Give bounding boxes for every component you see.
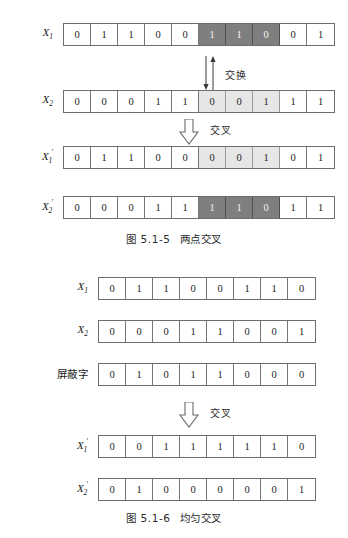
swap-label: 交换: [225, 67, 246, 82]
gene-cell: 1: [261, 436, 288, 457]
gene-cell: 1: [172, 197, 199, 218]
gene-cell: 0: [126, 436, 153, 457]
gene-cell: 1: [118, 24, 145, 45]
gene-strip-x2: 0 0 0 1 1 0 0 1 1 1: [63, 90, 335, 113]
gene-cell: 0: [261, 321, 288, 342]
gene-cell: 0: [118, 197, 145, 218]
gene-cell: 1: [288, 321, 315, 342]
gene-cell: 0: [172, 147, 199, 168]
gene-cell: 0: [153, 364, 180, 385]
gene-cell: 0: [234, 364, 261, 385]
gene-strip-mask: 0 1 0 1 1 0 0 0: [98, 363, 316, 386]
gene-cell: 1: [207, 436, 234, 457]
hollow-down-arrow-icon: [178, 402, 200, 428]
gene-cell: 1: [207, 364, 234, 385]
caption-number: 图 5.1-6: [126, 512, 171, 524]
gene-strip-x2-prime: 0 0 0 1 1 1 1 0 1 1: [63, 196, 335, 219]
crossover-annotation: 交叉: [178, 402, 231, 428]
gene-cell: 0: [180, 278, 207, 299]
caption-title: 两点交叉: [180, 233, 222, 245]
caption-title: 均匀交叉: [180, 512, 222, 524]
gene-cell: 0: [91, 197, 118, 218]
gene-cell: 0: [288, 364, 315, 385]
gene-cell: 1: [288, 479, 315, 500]
gene-cell: 0: [64, 91, 91, 112]
row-label-x2-prime: X2′: [48, 481, 98, 496]
gene-cell: 0: [99, 364, 126, 385]
textbook-figure-page: X1 0 1 1 0 0 1 1 0 0 1: [0, 0, 348, 538]
chromosome-row-x2: X2 0 0 0 1 1 0 0 1: [48, 319, 316, 343]
gene-strip-x2: 0 0 0 1 1 0 0 1: [98, 320, 316, 343]
gene-cell: 1: [180, 436, 207, 457]
crossover-label: 交叉: [210, 122, 231, 137]
gene-cell-highlighted: 0: [253, 197, 280, 218]
chromosome-row-x1: X1 0 1 1 0 0 1 1 0: [48, 276, 316, 300]
gene-cell: 0: [145, 147, 172, 168]
gene-cell: 0: [99, 479, 126, 500]
gene-cell: 0: [99, 436, 126, 457]
gene-cell-highlighted: 0: [253, 24, 280, 45]
hollow-down-arrow-icon: [178, 119, 200, 145]
chromosome-row-x2-prime: X2′ 0 1 0 0 0 0 0 1: [48, 477, 316, 501]
gene-cell: 1: [234, 278, 261, 299]
row-label-x2-prime: X2′: [13, 199, 63, 214]
gene-cell-highlighted: 1: [253, 91, 280, 112]
crossover-annotation: 交叉: [178, 119, 231, 145]
gene-cell: 1: [307, 24, 334, 45]
figure-caption-5-1-6: 图 5.1-6均匀交叉: [0, 510, 348, 525]
gene-cell: 1: [153, 278, 180, 299]
row-label-x1: X1: [13, 27, 63, 41]
gene-cell: 1: [153, 436, 180, 457]
gene-cell: 1: [126, 479, 153, 500]
gene-cell: 0: [64, 147, 91, 168]
swap-annotation: 交换: [202, 56, 246, 90]
gene-cell: 0: [234, 479, 261, 500]
gene-cell: 0: [288, 436, 315, 457]
gene-cell: 1: [307, 91, 334, 112]
gene-cell: 0: [153, 479, 180, 500]
gene-cell: 0: [280, 147, 307, 168]
gene-cell: 0: [99, 321, 126, 342]
figure-caption-5-1-5: 图 5.1-5两点交叉: [0, 231, 348, 246]
gene-cell: 0: [64, 197, 91, 218]
gene-cell: 1: [207, 321, 234, 342]
row-label-x1-prime: X1′: [13, 149, 63, 164]
gene-cell-highlighted: 1: [226, 24, 253, 45]
gene-strip-x1-prime: 0 0 1 1 1 1 1 0: [98, 435, 316, 458]
gene-strip-x1: 0 1 1 0 0 1 1 0: [98, 277, 316, 300]
gene-cell: 0: [126, 321, 153, 342]
gene-cell: 1: [118, 147, 145, 168]
row-label-x2: X2: [48, 324, 98, 338]
row-label-x1-prime: X1′: [48, 438, 98, 453]
gene-cell: 0: [145, 24, 172, 45]
gene-cell-highlighted: 1: [226, 197, 253, 218]
row-label-x2: X2: [13, 94, 63, 108]
gene-cell: 1: [126, 364, 153, 385]
gene-cell-highlighted: 0: [226, 91, 253, 112]
gene-cell: 0: [118, 91, 145, 112]
chromosome-row-mask: 屏蔽字 0 1 0 1 1 0 0 0: [20, 362, 316, 386]
swap-arrows-icon: [202, 56, 218, 90]
gene-cell: 0: [207, 479, 234, 500]
row-label-mask: 屏蔽字: [20, 369, 98, 380]
gene-cell: 1: [91, 147, 118, 168]
chromosome-row-x1-prime: X1′ 0 0 1 1 1 1 1 0: [48, 434, 316, 458]
gene-cell-highlighted: 1: [253, 147, 280, 168]
gene-cell: 1: [180, 364, 207, 385]
caption-number: 图 5.1-5: [126, 233, 171, 245]
gene-cell-highlighted: 0: [199, 147, 226, 168]
gene-cell: 0: [64, 24, 91, 45]
gene-cell: 0: [153, 321, 180, 342]
gene-strip-x2-prime: 0 1 0 0 0 0 0 1: [98, 478, 316, 501]
gene-cell: 0: [280, 24, 307, 45]
gene-cell: 1: [126, 278, 153, 299]
gene-cell: 0: [288, 278, 315, 299]
gene-cell: 1: [280, 197, 307, 218]
gene-cell-highlighted: 0: [226, 147, 253, 168]
gene-cell: 1: [172, 91, 199, 112]
gene-cell: 1: [280, 91, 307, 112]
gene-cell: 1: [91, 24, 118, 45]
gene-cell: 0: [234, 321, 261, 342]
chromosome-row-x2: X2 0 0 0 1 1 0 0 1 1 1: [13, 89, 335, 113]
gene-cell: 0: [172, 24, 199, 45]
